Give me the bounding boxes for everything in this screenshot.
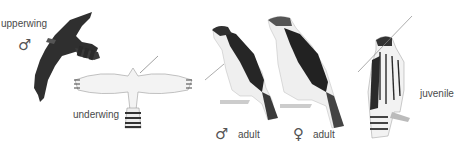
juvenile-hawk-drawing (358, 16, 412, 138)
male-adult-label: adult (238, 129, 260, 140)
male-symbol-icon: ♂ (18, 38, 31, 53)
male-adult-hawk-drawing (205, 26, 278, 120)
juvenile-label: juvenile (420, 88, 454, 99)
female-adult-hawk-drawing (268, 16, 344, 128)
female-symbol-icon: ♀ (293, 127, 304, 142)
male-symbol-icon: ♂ (215, 127, 228, 142)
female-adult-label: adult (313, 129, 335, 140)
upperwing-label: upperwing (1, 18, 47, 29)
underwing-label: underwing (73, 109, 119, 120)
hawk-illustrations (0, 0, 458, 151)
